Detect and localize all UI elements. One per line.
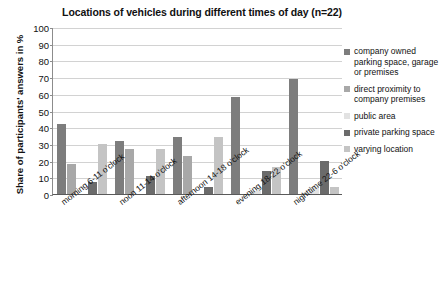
legend-label: direct proximity to company premises [354, 84, 444, 105]
y-axis-tick-mark [50, 195, 53, 196]
legend-item[interactable]: public area [344, 111, 444, 122]
y-axis-tick-label: 0 [44, 190, 49, 201]
bar-chart: Locations of vehicles during different t… [0, 0, 446, 295]
legend-item[interactable]: private parking space [344, 127, 444, 138]
bar [231, 97, 240, 194]
legend-item[interactable]: company owned parking space, garage or p… [344, 46, 444, 78]
legend-swatch-icon [344, 130, 350, 136]
legend-label: varying location [354, 144, 413, 155]
bar [330, 187, 339, 194]
bar [204, 187, 213, 194]
y-axis-tick-label: 90 [38, 39, 49, 50]
y-axis-tick-label: 100 [33, 23, 49, 34]
y-axis-tick-label: 70 [38, 73, 49, 84]
legend-label: public area [354, 111, 396, 122]
y-axis-tick-label: 60 [38, 89, 49, 100]
bar [289, 79, 298, 194]
legend-item[interactable]: direct proximity to company premises [344, 84, 444, 105]
bar [57, 124, 66, 194]
legend-label: company owned parking space, garage or p… [354, 46, 444, 78]
y-axis-tick-label: 50 [38, 106, 49, 117]
y-axis-tick-label: 40 [38, 123, 49, 134]
y-axis-tick-label: 10 [38, 173, 49, 184]
y-axis-tick-label: 80 [38, 56, 49, 67]
y-axis-tick-label: 30 [38, 139, 49, 150]
legend-swatch-icon [344, 86, 350, 92]
y-axis-title: Share of participants' answers in % [14, 25, 25, 205]
legend-item[interactable]: varying location [344, 144, 444, 155]
bar [115, 141, 124, 194]
y-axis-tick-label: 20 [38, 156, 49, 167]
chart-title: Locations of vehicles during different t… [52, 6, 352, 18]
legend: company owned parking space, garage or p… [344, 46, 444, 160]
legend-label: private parking space [354, 127, 435, 138]
legend-swatch-icon [344, 146, 350, 152]
legend-swatch-icon [344, 49, 350, 55]
legend-swatch-icon [344, 113, 350, 119]
